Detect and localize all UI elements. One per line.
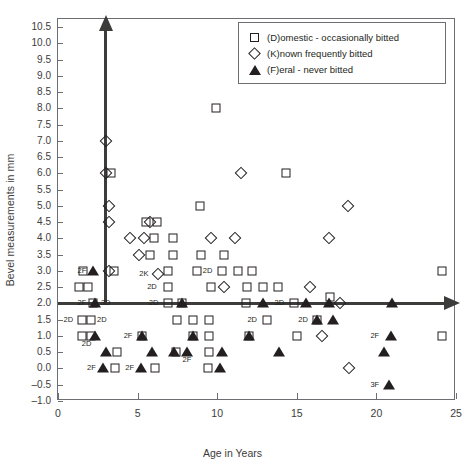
y-tick-label: 0.5 <box>37 347 58 357</box>
annotation-label: 2F <box>87 365 96 373</box>
y-tick-mark <box>58 173 63 174</box>
y-tick-mark <box>58 76 63 77</box>
y-tick-label: 4.0 <box>37 233 58 243</box>
data-point-square <box>273 283 282 292</box>
y-tick-mark <box>58 385 63 386</box>
data-point-square <box>205 348 214 357</box>
data-point-triangle <box>327 314 339 324</box>
y-tick-label: –1.0 <box>32 396 58 406</box>
vertical-axis-arrowhead <box>99 15 113 31</box>
data-point-square <box>206 283 215 292</box>
y-tick-label: 4.5 <box>37 217 58 227</box>
data-point-diamond <box>133 248 146 261</box>
data-point-triangle <box>168 347 180 357</box>
y-tick-label: 3.5 <box>37 250 58 260</box>
data-point-square <box>243 283 252 292</box>
data-point-triangle <box>87 265 99 275</box>
y-tick-label: 5.5 <box>37 185 58 195</box>
annotation-label: 2D <box>149 300 159 308</box>
data-point-square <box>205 331 214 340</box>
data-point-triangle <box>311 314 323 324</box>
data-point-square <box>211 104 220 113</box>
annotation-label: 2D <box>64 316 74 324</box>
x-tick-label: 5 <box>135 408 141 419</box>
data-point-diamond <box>316 330 329 343</box>
data-point-triangle <box>89 298 101 308</box>
annotation-label: 2F <box>370 332 379 340</box>
legend-item-diamond: (K)nown frequently bitted <box>247 45 438 61</box>
y-tick-mark <box>58 287 63 288</box>
data-point-triangle <box>97 363 109 373</box>
data-point-square <box>262 315 271 324</box>
annotation-label: 2F <box>124 332 133 340</box>
y-tick-label: 1.0 <box>37 331 58 341</box>
x-tick-mark <box>297 393 298 399</box>
y-axis-title: Bevel measurements in mm <box>0 0 20 440</box>
y-tick-label: 3.0 <box>37 266 58 276</box>
y-tick-mark <box>58 141 63 142</box>
data-point-square <box>168 250 177 259</box>
y-tick-mark <box>58 157 63 158</box>
data-point-diamond <box>333 297 346 310</box>
data-point-square <box>84 283 93 292</box>
x-tick-mark <box>456 393 457 399</box>
annotation-label: 2D <box>203 267 213 275</box>
annotation-label: 2F <box>77 300 86 308</box>
y-tick-mark <box>58 92 63 93</box>
y-tick-label: –0.5 <box>32 380 58 390</box>
annotation-label: 3F <box>370 381 379 389</box>
annotation-label: 2D <box>147 283 157 291</box>
data-point-diamond <box>204 232 217 245</box>
data-point-square <box>233 266 242 275</box>
y-tick-mark <box>58 238 63 239</box>
data-point-square <box>168 234 177 243</box>
scatter-plot-figure: Bevel measurements in mm Age in Years 10… <box>0 0 465 475</box>
y-tick-mark <box>58 125 63 126</box>
annotation-label: 2D <box>97 316 107 324</box>
data-point-square <box>281 169 290 178</box>
data-point-square <box>112 348 121 357</box>
y-tick-label: 5.0 <box>37 201 58 211</box>
y-tick-label: 9.0 <box>37 71 58 81</box>
y-tick-mark <box>58 368 63 369</box>
y-tick-mark <box>58 401 63 402</box>
annotation-label: 2F <box>125 365 134 373</box>
data-point-diamond <box>322 232 335 245</box>
y-tick-label: 8.5 <box>37 87 58 97</box>
data-point-square <box>163 283 172 292</box>
y-tick-mark <box>58 190 63 191</box>
annotation-label: 2D <box>247 316 257 324</box>
triangle-marker-icon <box>247 61 263 77</box>
y-tick-label: 7.0 <box>37 136 58 146</box>
y-tick-label: 2.5 <box>37 282 58 292</box>
annotation-label: 2F <box>183 357 192 365</box>
data-point-square <box>192 266 201 275</box>
data-point-diamond <box>341 200 354 213</box>
y-axis-title-text: Bevel measurements in mm <box>4 154 16 287</box>
data-point-square <box>219 250 228 259</box>
annotation-label: 2D <box>298 316 308 324</box>
annotation-label: 2K <box>139 270 148 278</box>
annotation-label: 3D <box>274 300 284 308</box>
data-point-square <box>203 364 212 373</box>
x-axis-title: Age in Years <box>0 447 465 459</box>
x-tick-label: 20 <box>371 408 383 419</box>
data-point-diamond <box>228 232 241 245</box>
x-tick-label: 0 <box>55 408 61 419</box>
legend-item-label: (F)eral - never bitted <box>267 64 353 75</box>
data-point-triangle <box>386 298 398 308</box>
data-point-triangle <box>214 363 226 373</box>
data-point-square <box>248 266 257 275</box>
y-tick-label: 10.0 <box>32 38 58 48</box>
data-point-triangle <box>300 298 312 308</box>
data-point-square <box>74 283 83 292</box>
data-point-diamond <box>217 281 230 294</box>
y-tick-label: 7.5 <box>37 120 58 130</box>
data-point-square <box>111 364 120 373</box>
chart-legend: (D)omestic - occasionally bitted(K)nown … <box>238 22 446 84</box>
data-point-diamond <box>235 167 248 180</box>
data-point-square <box>77 315 86 324</box>
data-point-diamond <box>343 362 356 375</box>
data-point-triangle <box>216 347 228 357</box>
data-point-square <box>197 250 206 259</box>
